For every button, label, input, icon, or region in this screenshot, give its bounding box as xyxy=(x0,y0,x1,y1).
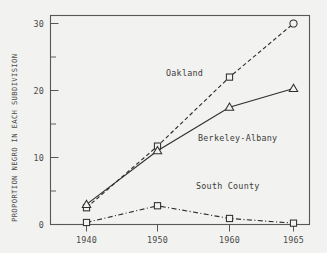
x-tick-label-1940: 1940 xyxy=(76,235,97,245)
plot-frame xyxy=(51,16,310,225)
data-point-marker-triangle xyxy=(289,84,297,91)
annotation-oakland: Oakland xyxy=(166,68,203,78)
y-tick-label-10: 10 xyxy=(34,153,44,163)
y-tick-label-30: 30 xyxy=(34,19,44,29)
data-point-marker-circle xyxy=(290,20,297,27)
series-berkeley-albany-markers xyxy=(82,84,297,207)
data-point-marker-square xyxy=(290,220,296,226)
data-point-marker-square xyxy=(226,215,232,221)
line-chart: 0 10 20 30 PROPORTION NEGRO IN EACH SUBD… xyxy=(0,0,327,253)
series-berkeley-albany-line xyxy=(87,88,294,204)
data-point-marker-square xyxy=(83,219,89,225)
x-axis-ticks xyxy=(87,225,294,232)
series-south-county xyxy=(83,203,296,227)
y-tick-label-0: 0 xyxy=(39,220,44,230)
data-point-marker-square xyxy=(226,74,232,80)
series-berkeley-albany xyxy=(82,84,297,207)
series-oakland-line xyxy=(87,24,294,208)
x-tick-label-1950: 1950 xyxy=(147,235,168,245)
x-tick-label-1965: 1965 xyxy=(283,235,304,245)
y-axis-minor-ticks xyxy=(51,57,57,191)
series-south-county-markers xyxy=(83,203,296,227)
x-tick-label-1960: 1960 xyxy=(219,235,240,245)
data-point-marker-triangle xyxy=(82,200,90,207)
annotation-south-county: South County xyxy=(196,181,260,191)
annotation-berkeley-albany: Berkeley-Albany xyxy=(198,133,277,143)
chart-figure: 0 10 20 30 PROPORTION NEGRO IN EACH SUBD… xyxy=(0,0,327,253)
y-tick-label-20: 20 xyxy=(34,86,44,96)
y-axis-title: PROPORTION NEGRO IN EACH SUBDIVISION xyxy=(10,54,19,222)
data-point-marker-square xyxy=(154,203,160,209)
series-south-county-line xyxy=(87,206,294,223)
